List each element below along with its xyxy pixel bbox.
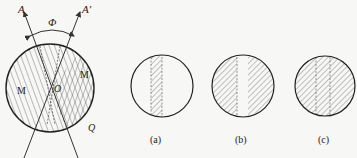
angle-arc <box>30 30 74 36</box>
panel-b: (b) <box>210 50 278 146</box>
panel-a-caption: (a) <box>150 134 161 146</box>
label-Q: Q <box>88 122 96 133</box>
diagram-canvas: A A′ Φ M O M Q (a) (b) (c) <box>0 0 357 158</box>
panel-c-caption: (c) <box>318 134 329 146</box>
panel-c: (c) <box>292 50 357 146</box>
label-A: A <box>17 3 25 15</box>
figure: A A′ Φ M O M Q (a) (b) (c) <box>0 0 357 158</box>
panel-a-hatched-stripe <box>151 50 162 130</box>
label-phi: Φ <box>48 16 57 28</box>
label-A-prime: A′ <box>81 3 92 15</box>
label-O: O <box>54 83 61 94</box>
panel-c-hatch <box>292 50 357 130</box>
label-M-left: M <box>17 85 26 96</box>
main-polarizer-diagram: A A′ Φ M O M Q <box>0 3 110 158</box>
label-M-right: M <box>80 69 89 80</box>
panel-b-caption: (b) <box>235 134 247 146</box>
panel-a: (a) <box>131 50 193 146</box>
